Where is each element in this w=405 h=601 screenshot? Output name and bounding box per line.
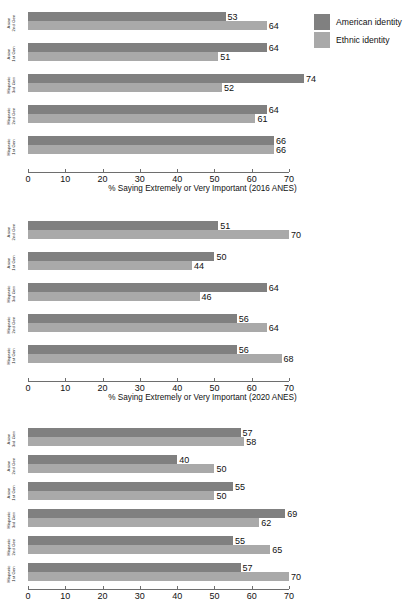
bar-value-label: 57 <box>243 429 253 438</box>
chart-panel-2: Asian2nd Gen5170Asian1st Gen5044Hispanic… <box>0 0 405 601</box>
bar-american-identity <box>28 455 177 464</box>
legend-item-american[interactable]: American identity <box>314 14 402 30</box>
bar-american-identity <box>28 12 226 21</box>
x-axis-tick-label: 0 <box>17 592 39 601</box>
bar-value-label: 50 <box>216 253 226 262</box>
bar-value-label: 62 <box>261 519 271 528</box>
y-axis-category-line: Asian <box>7 250 12 276</box>
x-axis-tick <box>28 378 29 381</box>
x-axis-tick-label: 50 <box>203 384 225 393</box>
x-axis-tick-label: 60 <box>241 384 263 393</box>
bar-value-label: 55 <box>235 483 245 492</box>
legend-swatch-american <box>314 14 330 30</box>
bar-ethnic-identity <box>28 261 192 270</box>
x-axis-tick-label: 20 <box>92 384 114 393</box>
y-axis-category-line: Hispanic <box>7 134 12 160</box>
x-axis-tick <box>252 169 253 172</box>
x-axis-line <box>28 589 289 590</box>
bar-ethnic-identity <box>28 491 214 500</box>
bar-value-label: 64 <box>269 284 279 293</box>
bar-american-identity <box>28 283 267 292</box>
y-axis-category-label: Hispanic3rd Gen <box>7 507 19 533</box>
bar-ethnic-identity <box>28 437 244 446</box>
bar-american-identity <box>28 252 214 261</box>
bar-ethnic-identity <box>28 323 267 332</box>
x-axis-tick <box>65 169 66 172</box>
bar-value-label: 74 <box>306 75 316 84</box>
x-axis-tick-label: 70 <box>278 592 300 601</box>
x-axis-tick-label: 40 <box>166 592 188 601</box>
y-axis-category-label: Asian3rd Gen <box>7 426 19 452</box>
y-axis-category-line: Asian <box>7 453 12 479</box>
bar-ethnic-identity <box>28 230 289 239</box>
y-axis-category-label: Asian2nd Gen <box>7 453 19 479</box>
bar-ethnic-identity <box>28 114 255 123</box>
y-axis-category-line: 1st Gen <box>12 480 17 506</box>
x-axis-tick-label: 0 <box>17 175 39 184</box>
bar-value-label: 68 <box>284 355 294 364</box>
x-axis-title: % Saying Extremely or Very Important (20… <box>0 393 405 402</box>
x-axis-tick-label: 0 <box>17 384 39 393</box>
bar-american-identity <box>28 136 274 145</box>
bar-value-label: 50 <box>216 465 226 474</box>
y-axis-category-line: Hispanic <box>7 72 12 98</box>
y-axis-category-label: Asian1st Gen <box>7 250 19 276</box>
bar-american-identity <box>28 509 285 518</box>
bar-american-identity <box>28 221 218 230</box>
bar-value-label: 64 <box>269 22 279 31</box>
x-axis-title: % Saying Extremely or Very Important (20… <box>0 184 405 193</box>
x-axis-tick <box>65 378 66 381</box>
bar-value-label: 56 <box>239 346 249 355</box>
y-axis-category-line: 3rd Gen <box>12 281 17 307</box>
y-axis-category-label: Hispanic1st Gen <box>7 343 19 369</box>
y-axis-category-label: Asian1st Gen <box>7 41 19 67</box>
bar-value-label: 58 <box>246 438 256 447</box>
x-axis-tick <box>65 586 66 589</box>
y-axis-category-line: Asian <box>7 219 12 245</box>
y-axis-category-line: 3rd Gen <box>12 426 17 452</box>
y-axis-category-line: 3rd Gen <box>12 72 17 98</box>
y-axis-category-label: Hispanic2nd Gen <box>7 312 19 338</box>
legend-item-ethnic[interactable]: Ethnic identity <box>314 32 390 48</box>
bar-value-label: 53 <box>228 13 238 22</box>
y-axis-category-label: Hispanic3rd Gen <box>7 281 19 307</box>
bar-american-identity <box>28 345 237 354</box>
y-axis-category-line: Asian <box>7 480 12 506</box>
bar-ethnic-identity <box>28 572 289 581</box>
x-axis-tick <box>177 378 178 381</box>
bar-value-label: 64 <box>269 324 279 333</box>
y-axis-category-line: Hispanic <box>7 507 12 533</box>
bar-value-label: 57 <box>243 564 253 573</box>
x-axis-tick <box>103 378 104 381</box>
bar-value-label: 64 <box>269 106 279 115</box>
x-axis-tick-label: 10 <box>54 175 76 184</box>
y-axis-category-line: Hispanic <box>7 343 12 369</box>
y-axis-category-line: 1st Gen <box>12 250 17 276</box>
y-axis-category-line: 2nd Gen <box>12 312 17 338</box>
y-axis-category-label: Hispanic1st Gen <box>7 134 19 160</box>
bar-american-identity <box>28 105 267 114</box>
bar-value-label: 56 <box>239 315 249 324</box>
y-axis-category-line: 2nd Gen <box>12 103 17 129</box>
x-axis-tick <box>177 586 178 589</box>
bar-american-identity <box>28 74 304 83</box>
x-axis-tick <box>140 586 141 589</box>
plot-area: Asian2nd Gen5170Asian1st Gen5044Hispanic… <box>0 0 405 601</box>
y-axis-category-line: 1st Gen <box>12 134 17 160</box>
x-axis-tick <box>252 378 253 381</box>
x-axis-line <box>28 381 289 382</box>
x-axis-tick <box>28 586 29 589</box>
bar-value-label: 55 <box>235 537 245 546</box>
bar-ethnic-identity <box>28 518 259 527</box>
bar-value-label: 64 <box>269 44 279 53</box>
x-axis-tick <box>289 169 290 172</box>
x-axis-tick-label: 20 <box>92 175 114 184</box>
y-axis-category-line: 2nd Gen <box>12 219 17 245</box>
y-axis-category-label: Hispanic3rd Gen <box>7 72 19 98</box>
y-axis-category-line: 2nd Gen <box>12 534 17 560</box>
bar-american-identity <box>28 314 237 323</box>
bar-value-label: 46 <box>202 293 212 302</box>
y-axis-category-line: Asian <box>7 41 12 67</box>
bar-value-label: 51 <box>220 222 230 231</box>
y-axis-category-line: 2nd Gen <box>12 453 17 479</box>
